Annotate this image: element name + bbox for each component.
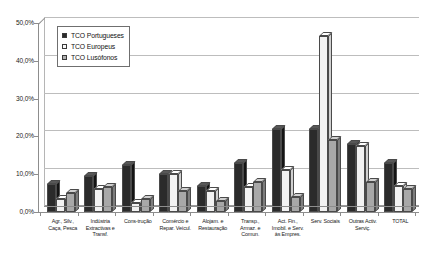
bar: [328, 140, 337, 212]
bar: [384, 163, 393, 212]
y-axis-tick-label: 30,0%: [0, 95, 34, 102]
x-axis-tick: [190, 212, 191, 216]
bar: [234, 163, 243, 212]
legend-item-label: TCO Portugueses: [71, 32, 124, 39]
x-axis-tick: [228, 212, 229, 216]
chart-floor: [38, 206, 419, 212]
bar-face: [309, 129, 318, 212]
bar-face: [272, 129, 281, 212]
x-axis-tick: [153, 212, 154, 216]
x-axis-tick: [340, 212, 341, 216]
legend-item-label: TCO Lusófonos: [71, 54, 117, 61]
bar-face: [384, 163, 393, 212]
x-axis-tick: [115, 212, 116, 216]
y-axis-back-line: [44, 17, 45, 206]
x-axis-tick: [265, 212, 266, 216]
bar-face: [328, 140, 337, 212]
axis-depth-connector: [38, 17, 45, 24]
y-axis-tick-label: 10,0%: [0, 170, 34, 177]
bar-side: [337, 137, 341, 212]
bar-group: [197, 23, 225, 212]
y-axis-line: [38, 23, 39, 212]
gridline: [44, 17, 419, 18]
bar-face: [347, 144, 356, 212]
bar-face: [122, 165, 131, 212]
x-axis-tick: [78, 212, 79, 216]
bar-group: [159, 23, 187, 212]
bar: [347, 144, 356, 212]
y-axis-tick-label: 0,0%: [0, 208, 34, 215]
bar-face: [356, 146, 365, 212]
x-axis-tick: [415, 212, 416, 216]
bar-group: [309, 23, 337, 212]
bar-group: [347, 23, 375, 212]
bar-face: [319, 36, 328, 212]
y-axis-tick-label: 40,0%: [0, 57, 34, 64]
x-axis-tick-label: TOTAL: [376, 218, 424, 225]
x-axis-tick: [378, 212, 379, 216]
bar-group: [234, 23, 262, 212]
floor-front-edge: [38, 212, 419, 213]
bar-chart: 0,0%10,0%20,0%30,0%40,0%50,0% Agr., Silv…: [0, 0, 427, 256]
y-axis-tick-label: 20,0%: [0, 132, 34, 139]
bar: [309, 129, 318, 212]
bar: [272, 129, 281, 212]
y-axis-tick-label: 50,0%: [0, 19, 34, 26]
legend-item: TCO Lusófonos: [62, 52, 124, 63]
floor-back-edge: [44, 206, 419, 207]
bar: [319, 36, 328, 212]
bar-group: [272, 23, 300, 212]
bar: [356, 146, 365, 212]
x-axis-tick: [40, 212, 41, 216]
legend-swatch-gray-icon: [62, 55, 67, 60]
legend-item-label: TCO Europeus: [71, 43, 115, 50]
x-axis-tick: [303, 212, 304, 216]
legend: TCO Portugueses TCO Europeus TCO Lusófon…: [57, 26, 130, 67]
legend-swatch-dark-icon: [62, 33, 67, 38]
bar-face: [234, 163, 243, 212]
bar-group: [384, 23, 412, 212]
legend-item: TCO Portugueses: [62, 30, 124, 41]
legend-item: TCO Europeus: [62, 41, 124, 52]
bar: [122, 165, 131, 212]
legend-swatch-white-icon: [62, 44, 67, 49]
